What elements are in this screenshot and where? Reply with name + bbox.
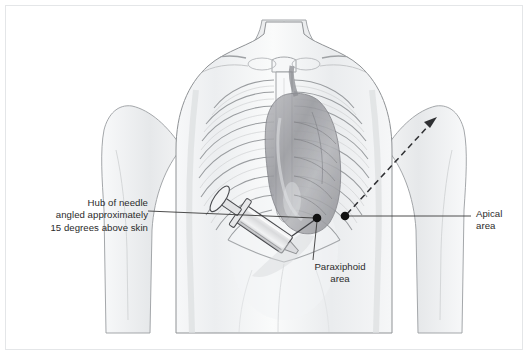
apical-site-marker (341, 212, 350, 221)
anatomical-illustration (0, 0, 529, 356)
paraxiphoid-site-marker (313, 214, 322, 223)
callout-hub-of-needle: Hub of needle angled approximately 15 de… (50, 197, 148, 234)
callout-apical-area: Apical area (476, 208, 502, 233)
callout-paraxiphoid-area: Paraxiphoid area (294, 261, 386, 286)
illustration-figure: Hub of needle angled approximately 15 de… (0, 0, 529, 356)
